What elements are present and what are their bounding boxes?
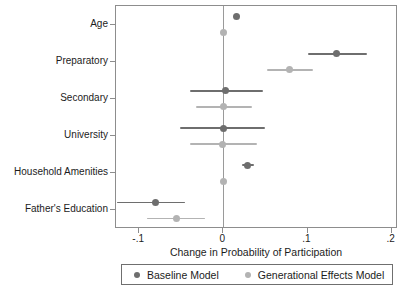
estimate-point-marker[interactable] <box>222 87 229 94</box>
estimate-point-marker[interactable] <box>333 50 340 57</box>
legend-label: Baseline Model <box>147 269 219 281</box>
x-axis-tick-label: .1 <box>287 233 327 244</box>
legend: Baseline Model Generational Effects Mode… <box>121 264 393 285</box>
chart-figure: AgePreparatorySecondaryUniversityHouseho… <box>0 0 403 289</box>
legend-item-baseline[interactable]: Baseline Model <box>134 269 219 281</box>
y-axis-tick-label: Father's Education <box>0 203 108 214</box>
zero-reference-line <box>223 6 224 227</box>
estimate-point-marker[interactable] <box>152 199 159 206</box>
y-axis-tick-label: Preparatory <box>0 55 108 66</box>
legend-item-generational[interactable]: Generational Effects Model <box>245 269 384 281</box>
legend-marker-icon <box>245 272 251 278</box>
estimate-point-marker[interactable] <box>173 215 180 222</box>
y-axis-tick-label: Age <box>0 18 108 29</box>
legend-label: Generational Effects Model <box>258 269 384 281</box>
x-axis-tick-label: 0 <box>202 233 242 244</box>
estimate-point-marker[interactable] <box>220 125 227 132</box>
plot-area <box>115 5 397 228</box>
estimate-point-marker[interactable] <box>233 13 240 20</box>
estimate-point-marker[interactable] <box>244 162 251 169</box>
legend-marker-icon <box>134 272 140 278</box>
y-axis-tick-label: University <box>0 129 108 140</box>
estimate-point-marker[interactable] <box>220 29 227 36</box>
x-axis-title: Change in Probability of Participation <box>115 246 397 258</box>
estimate-point-marker[interactable] <box>220 178 227 185</box>
estimate-point-marker[interactable] <box>220 103 227 110</box>
estimate-point-marker[interactable] <box>219 141 226 148</box>
y-axis-tick-label: Secondary <box>0 92 108 103</box>
x-axis-tick-label: -.1 <box>118 233 158 244</box>
y-axis-tick-label: Household Amenities <box>0 166 108 177</box>
x-axis-tick-label: .2 <box>371 233 403 244</box>
estimate-point-marker[interactable] <box>286 66 293 73</box>
